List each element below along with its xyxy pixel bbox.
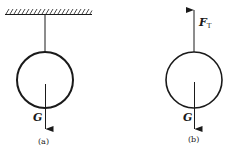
figure-a: G (a) [5, 9, 92, 146]
physics-diagram: G (a) FT G (b) [0, 0, 227, 158]
tension-label-sub: T [207, 22, 212, 30]
ceiling [5, 9, 92, 15]
caption-a: (a) [38, 137, 49, 146]
weight-label: G [33, 111, 42, 124]
ceiling-hatching [6, 9, 92, 14]
caption-b: (b) [188, 135, 199, 144]
figure-b: FT G (b) [166, 10, 222, 144]
weight-label-b: G [183, 111, 192, 124]
tension-label: FT [198, 16, 212, 30]
